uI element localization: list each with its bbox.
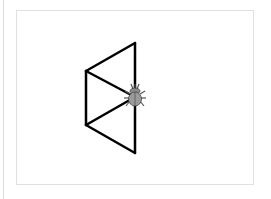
line-segment bbox=[86, 125, 135, 153]
line-segment bbox=[86, 97, 135, 125]
line-segment bbox=[86, 43, 135, 71]
drawing-layer bbox=[0, 0, 271, 199]
